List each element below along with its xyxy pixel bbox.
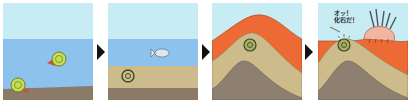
panel-2-buried (108, 3, 198, 100)
ammonite-fossil-icon (244, 39, 256, 51)
speech-line-1: オッ！ (334, 9, 358, 16)
panel-3-uplift (212, 3, 302, 100)
speech-line-2: 化石だ！ (334, 16, 358, 23)
arrow-right-icon (305, 44, 313, 60)
speech-bubble-text: オッ！ 化石だ！ (334, 9, 358, 23)
arrow-right-icon (97, 44, 105, 60)
panel-1-living-sea (3, 3, 93, 100)
arrow-right-icon (202, 44, 210, 60)
panel-4-discovery: オッ！ 化石だ！ (318, 3, 408, 100)
